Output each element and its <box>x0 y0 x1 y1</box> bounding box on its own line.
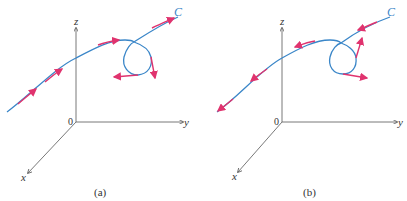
diagram-a <box>0 0 205 201</box>
z-axis-label: z <box>280 16 284 27</box>
y-axis-label: y <box>184 117 189 128</box>
z-axis-label: z <box>74 16 78 27</box>
x-axis <box>238 122 282 172</box>
origin-label: 0 <box>274 117 279 127</box>
curve-label: C <box>387 6 395 18</box>
y-axis-label: y <box>398 117 403 128</box>
origin-label: 0 <box>68 117 73 127</box>
x-axis <box>28 122 76 173</box>
axes <box>28 28 183 173</box>
x-axis-label: x <box>21 172 26 183</box>
panel-caption: (a) <box>94 187 106 198</box>
axes <box>238 28 397 172</box>
panel-a: z y x 0 C (a) <box>0 0 205 201</box>
panel-b: z y x 0 C (b) <box>205 0 407 201</box>
x-axis-label: x <box>232 171 237 182</box>
curve-label: C <box>174 6 182 18</box>
panel-caption: (b) <box>303 187 316 198</box>
curve-c <box>217 17 390 112</box>
